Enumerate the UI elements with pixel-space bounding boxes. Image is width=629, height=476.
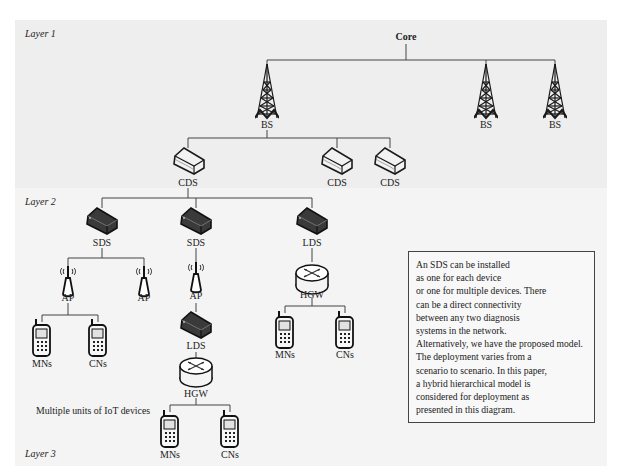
cns-label-3: CNs xyxy=(336,349,354,360)
cds-label-2: CDS xyxy=(327,177,346,188)
mobile-phone-icon xyxy=(219,409,241,449)
cds-label-1: CDS xyxy=(178,177,197,188)
ap-label-2: AP xyxy=(138,292,151,303)
hgw-label-1: HGW xyxy=(184,388,208,399)
cds-label-3: CDS xyxy=(380,177,399,188)
bs-label-1: BS xyxy=(261,119,273,130)
bs-label-3: BS xyxy=(549,119,561,130)
ap-label-3: AP xyxy=(190,290,203,301)
note-line: systems in the network. xyxy=(416,324,594,337)
cell-tower-icon xyxy=(255,64,279,120)
sds-server-icon xyxy=(85,206,119,236)
sds-label-2: SDS xyxy=(187,237,205,248)
cell-tower-icon xyxy=(474,64,498,120)
note-line: or one for multiple devices. There xyxy=(416,284,594,297)
lds-server-icon xyxy=(179,310,213,340)
lds-label-1: LDS xyxy=(303,237,322,248)
iot-devices-caption: Multiple units of IoT devices xyxy=(36,405,150,416)
access-point-icon xyxy=(188,260,204,294)
sds-label-1: SDS xyxy=(93,237,111,248)
cds-server-icon xyxy=(172,146,206,176)
cds-server-icon xyxy=(320,146,354,176)
cds-server-icon xyxy=(373,146,407,176)
note-line: a hybrid hierarchical model is xyxy=(416,377,594,390)
mns-label-3: MNs xyxy=(275,349,295,360)
mns-label-1: MNs xyxy=(32,358,52,369)
note-line: can be a direct connectivity xyxy=(416,298,594,311)
note-line: scenario to scenario. In this paper, xyxy=(416,364,594,377)
cell-tower-icon xyxy=(543,64,567,120)
explanation-note-box: An SDS can be installed as one for each … xyxy=(408,251,595,423)
mobile-phone-icon xyxy=(159,409,181,449)
mobile-phone-icon xyxy=(334,310,356,350)
note-line: presented in this diagram. xyxy=(416,403,594,416)
ap-label-1: AP xyxy=(62,292,75,303)
core-label: Core xyxy=(396,31,417,42)
mobile-phone-icon xyxy=(31,318,53,358)
cns-label-2: CNs xyxy=(221,449,239,460)
note-line: as one for each device xyxy=(416,271,594,284)
router-gateway-icon xyxy=(178,355,214,389)
note-line: An SDS can be installed xyxy=(416,258,594,271)
bs-label-2: BS xyxy=(480,119,492,130)
note-line: considered for deployment as xyxy=(416,390,594,403)
cns-label-1: CNs xyxy=(89,358,107,369)
note-line: The deployment varies from a xyxy=(416,350,594,363)
note-line: Alternatively, we have the proposed mode… xyxy=(416,337,594,350)
note-line: between any two diagnosis xyxy=(416,311,594,324)
mns-label-2: MNs xyxy=(160,449,180,460)
hgw-label-2: HGW xyxy=(300,289,324,300)
mobile-phone-icon xyxy=(274,310,296,350)
mobile-phone-icon xyxy=(87,318,109,358)
lds-label-2: LDS xyxy=(187,340,206,351)
sds-server-icon xyxy=(179,206,213,236)
lds-server-icon xyxy=(295,206,329,236)
